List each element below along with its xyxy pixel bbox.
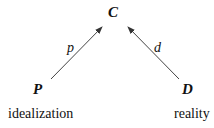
caption-reality: reality xyxy=(174,107,210,121)
node-d-label: D xyxy=(182,82,193,97)
arrow-p-to-c xyxy=(51,27,102,79)
caption-idealization: idealization xyxy=(8,107,73,121)
edge-p-label: p xyxy=(67,41,74,55)
node-p-label: P xyxy=(33,82,42,97)
node-c-label: C xyxy=(108,5,118,20)
edge-d-label: d xyxy=(154,41,161,55)
